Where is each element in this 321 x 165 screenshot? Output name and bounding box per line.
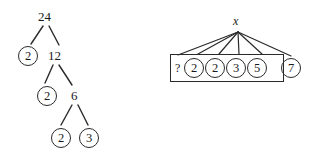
tree-edge-12-to-2-2 bbox=[45, 65, 53, 83]
tree-prime-node-3-level3: 3 bbox=[79, 128, 99, 148]
fan-line-3 bbox=[238, 32, 239, 54]
fan-line-4 bbox=[238, 32, 262, 54]
tree-node-6: 6 bbox=[71, 89, 78, 102]
box-circle-label: 2 bbox=[191, 61, 197, 76]
tree-edge-12-to-6-3 bbox=[59, 65, 72, 85]
tree-prime-label: 2 bbox=[58, 131, 64, 146]
tree-prime-node-2-level2: 2 bbox=[37, 86, 57, 106]
outside-circle-7: 7 bbox=[281, 58, 301, 78]
box-circle-2-first: 2 bbox=[184, 58, 204, 78]
factor-tree-edges bbox=[31, 26, 88, 125]
box-circle-label: 2 bbox=[212, 61, 218, 76]
tree-edge-6-to-2-4 bbox=[61, 105, 72, 125]
box-circle-3: 3 bbox=[226, 58, 246, 78]
box-circle-5: 5 bbox=[247, 58, 267, 78]
unknown-question-mark: ? bbox=[175, 61, 180, 76]
box-circle-2-second: 2 bbox=[205, 58, 225, 78]
fan-lines bbox=[178, 32, 291, 56]
box-circle-label: 5 bbox=[254, 61, 260, 76]
tree-prime-label: 3 bbox=[86, 131, 92, 146]
tree-prime-node-2-level1: 2 bbox=[18, 46, 38, 66]
tree-edge-24-to-12-1 bbox=[49, 26, 59, 45]
fan-line-0 bbox=[178, 32, 238, 55]
tree-prime-label: 2 bbox=[44, 89, 50, 104]
box-circle-label: 3 bbox=[233, 61, 239, 76]
tree-edge-6-to-3-5 bbox=[78, 105, 88, 125]
fan-line-5 bbox=[238, 32, 291, 56]
tree-prime-label: 2 bbox=[25, 49, 31, 64]
figure-lines-layer bbox=[0, 0, 321, 165]
fan-line-1 bbox=[198, 32, 238, 54]
tree-node-12: 12 bbox=[48, 49, 61, 62]
tree-node-24: 24 bbox=[38, 10, 51, 23]
tree-prime-node-2-level3: 2 bbox=[51, 128, 71, 148]
tree-edge-24-to-2-0 bbox=[31, 26, 43, 44]
outside-circle-label: 7 bbox=[288, 61, 294, 76]
math-figure: 24 12 6 2 2 2 3 x ? 2 2 3 5 7 bbox=[0, 0, 321, 165]
variable-x-label: x bbox=[233, 14, 238, 29]
